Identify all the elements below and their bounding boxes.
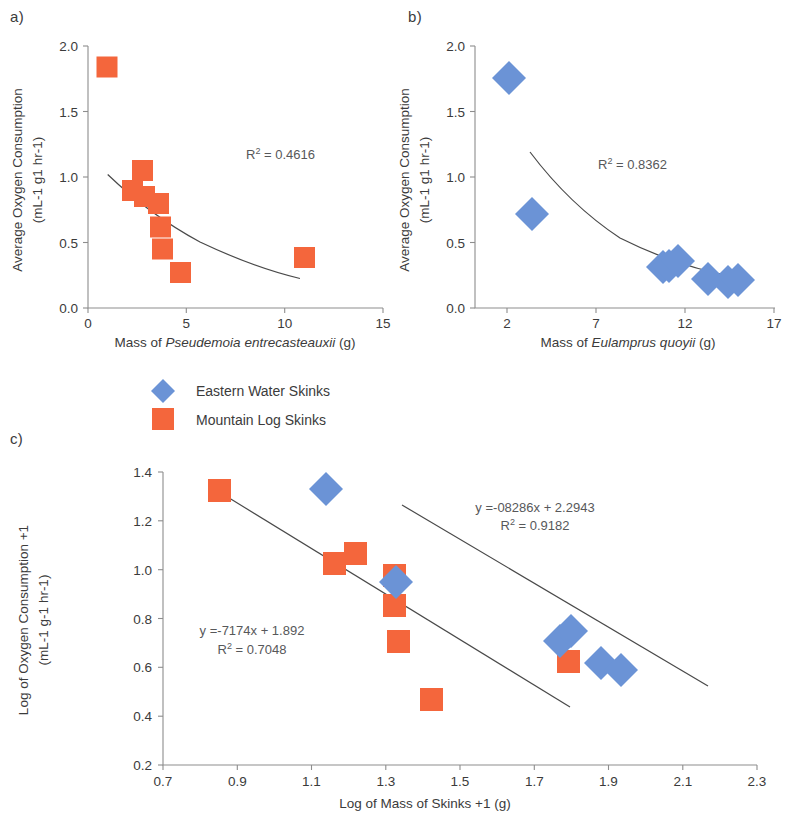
legend-label-mountain-log-skinks: Mountain Log Skinks: [196, 412, 326, 428]
panel-b-xtick-0: 2: [503, 316, 511, 331]
panel-b-xlabel: Mass of Eulamprus quoyii (g): [541, 335, 716, 350]
panel-b-xtick-1: 7: [592, 316, 600, 331]
panel-a-ytick-2: 1.0: [59, 170, 78, 185]
panel-b-r-rest: = 0.8362: [612, 157, 667, 172]
panel-c-xtick-5: 1.7: [525, 774, 544, 789]
panel-c-ytick-6: 1.4: [133, 465, 152, 480]
panel-b-r-base: R: [598, 157, 607, 172]
panel-a-ytick-1: 0.5: [59, 236, 78, 251]
panel-c-r-squared-mountain-log-skinks: R2 = 0.7048: [218, 641, 287, 657]
panel-b: 0.0 0.5 1.0 1.5 2.0 2 7 12 17 Average Ox…: [397, 39, 782, 350]
panel-a-xlabel-plain1: Mass of: [115, 335, 166, 350]
panel-b-xtick-3: 17: [766, 316, 781, 331]
panel-a-r-rest: = 0.4616: [260, 147, 315, 162]
panel-b-xtick-2: 12: [677, 316, 692, 331]
panel-c-xtick-4: 1.5: [451, 774, 470, 789]
panel-c-r2-rest: = 0.7048: [232, 642, 287, 657]
panel-a-r-squared: R2 = 0.4616: [246, 146, 315, 162]
panel-c-r2-base: R: [218, 642, 227, 657]
panel-b-ytick-4: 2.0: [446, 39, 465, 54]
panel-b-ytick-3: 1.5: [446, 105, 465, 120]
panel-c-equation-eastern-water-skinks: y =-08286x + 2.2943: [475, 500, 594, 515]
panel-b-y-ticks: [470, 46, 475, 308]
panel-a-ytick-3: 1.5: [59, 105, 78, 120]
panel-a-ylabel-line2: (mL-1 g1 hr-1): [30, 137, 45, 223]
panel-c-ylabel-line1: Log of Oxygen Consumption +1: [16, 525, 31, 715]
panel-a: 0.0 0.5 1.0 1.5 2.0 0 5 10 15 Average Ox…: [10, 39, 391, 350]
panel-c-xtick-3: 1.3: [376, 774, 395, 789]
panel-c-xtick-0: 0.7: [154, 774, 173, 789]
panel-c-ytick-4: 1.0: [133, 563, 152, 578]
panel-a-xtick-3: 15: [375, 316, 390, 331]
panel-c-xtick-8: 2.3: [748, 774, 767, 789]
panel-c-ytick-1: 0.4: [133, 709, 152, 724]
panel-b-x-ticks: [507, 308, 774, 313]
panel-c-ytick-3: 0.8: [133, 612, 152, 627]
panel-b-r-squared: R2 = 0.8362: [598, 156, 667, 172]
panel-b-xlabel-plain2: (g): [695, 335, 715, 350]
panel-c-ylabel-line2: (mL-1 g-1 hr-1): [36, 575, 51, 666]
legend-marker-eastern-water-skinks: [151, 379, 175, 403]
panel-c-ytick-5: 1.2: [133, 514, 152, 529]
panel-a-xtick-2: 10: [277, 316, 292, 331]
panel-b-ytick-1: 0.5: [446, 236, 465, 251]
legend-label-eastern-water-skinks: Eastern Water Skinks: [196, 383, 330, 399]
panel-b-ylabel-line1: Average Oxygen Consumption: [397, 88, 412, 272]
panel-a-xlabel: Mass of Pseudemoia entrecasteauxii (g): [115, 335, 356, 350]
panel-c-ytick-0: 0.2: [133, 758, 152, 773]
panel-c-y-ticks: [158, 472, 163, 765]
panel-b-ytick-2: 1.0: [446, 170, 465, 185]
panel-a-r-base: R: [246, 147, 255, 162]
panel-c-ytick-2: 0.6: [133, 660, 152, 675]
panel-c-xlabel: Log of Mass of Skinks +1 (g): [339, 796, 510, 811]
legend: Eastern Water Skinks Mountain Log Skinks: [151, 379, 330, 430]
panel-c-x-ticks: [163, 765, 757, 770]
panel-a-xtick-0: 0: [84, 316, 92, 331]
panel-c-xtick-7: 2.1: [673, 774, 692, 789]
panel-c-r1-base: R: [501, 518, 510, 533]
panel-b-xlabel-species: Eulamprus quoyii: [592, 335, 697, 350]
panel-b-ytick-0: 0.0: [446, 301, 465, 316]
panel-b-points: [492, 61, 755, 299]
panel-a-xlabel-plain2: (g): [335, 335, 355, 350]
figure-canvas: 0.0 0.5 1.0 1.5 2.0 0 5 10 15 Average Ox…: [0, 0, 787, 835]
panel-a-xtick-1: 5: [183, 316, 191, 331]
panel-a-y-ticks: [83, 46, 88, 308]
panel-a-ytick-0: 0.0: [59, 301, 78, 316]
panel-c-xtick-2: 1.1: [302, 774, 321, 789]
panel-b-xlabel-plain1: Mass of: [541, 335, 592, 350]
panel-c: 0.2 0.4 0.6 0.8 1.0 1.2 1.4 0.7 0.9 1.1 …: [16, 465, 766, 811]
panel-c-xtick-1: 0.9: [228, 774, 247, 789]
panel-c-r1-rest: = 0.9182: [515, 518, 570, 533]
panel-a-xlabel-species: Pseudemoia entrecasteauxii: [166, 335, 337, 350]
panel-a-ytick-4: 2.0: [59, 39, 78, 54]
panel-a-points: [97, 57, 316, 284]
panel-a-x-ticks: [88, 308, 383, 313]
panel-c-axes: [163, 472, 757, 765]
panel-c-equation-mountain-log-skinks: y =-7174x + 1.892: [200, 623, 305, 638]
panel-b-ylabel-line2: (mL-1 g1 hr-1): [417, 137, 432, 223]
panel-a-ylabel-line1: Average Oxygen Consumption: [10, 88, 25, 272]
panel-c-r-squared-eastern-water-skinks: R2 = 0.9182: [501, 517, 570, 533]
panel-c-xtick-6: 1.9: [599, 774, 618, 789]
legend-marker-mountain-log-skinks: [152, 408, 174, 430]
